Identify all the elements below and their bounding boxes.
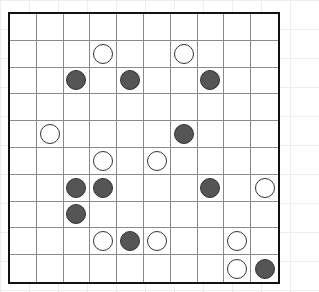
board-cell[interactable] [10,175,37,202]
board-cell[interactable] [117,68,144,95]
board-cell[interactable] [251,14,278,41]
board-cell[interactable] [90,41,117,68]
board-cell[interactable] [198,228,225,255]
board-cell[interactable] [144,41,171,68]
board-cell[interactable] [64,41,91,68]
board-cell[interactable] [198,255,225,282]
board-cell[interactable] [144,14,171,41]
board-cell[interactable] [224,228,251,255]
board-cell[interactable] [10,255,37,282]
board-cell[interactable] [37,68,64,95]
board-cell[interactable] [198,14,225,41]
board-cell[interactable] [10,148,37,175]
board-cell[interactable] [90,255,117,282]
board-cell[interactable] [90,68,117,95]
board-cell[interactable] [198,68,225,95]
board-cell[interactable] [117,255,144,282]
board-cell[interactable] [171,255,198,282]
board-cell[interactable] [251,94,278,121]
board-cell[interactable] [117,121,144,148]
board-cell[interactable] [64,175,91,202]
board-cell[interactable] [37,228,64,255]
board-cell[interactable] [64,148,91,175]
board-cell[interactable] [144,255,171,282]
board-cell[interactable] [117,175,144,202]
board-cell[interactable] [37,41,64,68]
board-cell[interactable] [198,94,225,121]
board-cell[interactable] [171,148,198,175]
board-cell[interactable] [117,41,144,68]
board-cell[interactable] [224,14,251,41]
board-cell[interactable] [117,228,144,255]
board-cell[interactable] [251,68,278,95]
board-cell[interactable] [37,14,64,41]
board-cell[interactable] [251,255,278,282]
board-cell[interactable] [117,148,144,175]
board-cell[interactable] [64,255,91,282]
board-cell[interactable] [37,202,64,229]
board-cell[interactable] [251,121,278,148]
board-cell[interactable] [90,148,117,175]
board-cell[interactable] [251,202,278,229]
board-cell[interactable] [171,175,198,202]
board-cell[interactable] [171,68,198,95]
board-cell[interactable] [198,148,225,175]
board-cell[interactable] [171,41,198,68]
board-cell[interactable] [90,175,117,202]
board-cell[interactable] [90,228,117,255]
board-cell[interactable] [224,175,251,202]
board-cell[interactable] [251,41,278,68]
board-cell[interactable] [198,41,225,68]
board-cell[interactable] [251,228,278,255]
board-cell[interactable] [37,121,64,148]
board-cell[interactable] [10,228,37,255]
board-cell[interactable] [198,175,225,202]
board-cell[interactable] [224,94,251,121]
board-cell[interactable] [117,202,144,229]
board-cell[interactable] [224,68,251,95]
board-cell[interactable] [171,228,198,255]
board-cell[interactable] [224,202,251,229]
board-cell[interactable] [251,148,278,175]
board-cell[interactable] [90,202,117,229]
board-cell[interactable] [144,121,171,148]
board-cell[interactable] [144,94,171,121]
board-cell[interactable] [251,175,278,202]
board-cell[interactable] [224,41,251,68]
board-cell[interactable] [10,41,37,68]
board-cell[interactable] [10,94,37,121]
board-cell[interactable] [37,255,64,282]
board-cell[interactable] [37,148,64,175]
board-cell[interactable] [64,121,91,148]
board-cell[interactable] [10,68,37,95]
board-cell[interactable] [171,202,198,229]
board-cell[interactable] [64,94,91,121]
board-cell[interactable] [37,94,64,121]
board-cell[interactable] [64,202,91,229]
board-cell[interactable] [64,228,91,255]
board-cell[interactable] [144,148,171,175]
board-cell[interactable] [144,202,171,229]
board-cell[interactable] [198,202,225,229]
board-cell[interactable] [117,14,144,41]
board-cell[interactable] [171,14,198,41]
board-cell[interactable] [171,94,198,121]
board-cell[interactable] [224,255,251,282]
board-cell[interactable] [171,121,198,148]
board-cell[interactable] [198,121,225,148]
board-cell[interactable] [64,14,91,41]
board-cell[interactable] [90,94,117,121]
board-cell[interactable] [224,121,251,148]
board-cell[interactable] [64,68,91,95]
board-cell[interactable] [117,94,144,121]
board-cell[interactable] [144,175,171,202]
board-cell[interactable] [10,14,37,41]
board-cell[interactable] [10,121,37,148]
board-cell[interactable] [144,68,171,95]
board-cell[interactable] [144,228,171,255]
board-cell[interactable] [90,121,117,148]
board-cell[interactable] [90,14,117,41]
board-cell[interactable] [224,148,251,175]
board-cell[interactable] [10,202,37,229]
board-cell[interactable] [37,175,64,202]
